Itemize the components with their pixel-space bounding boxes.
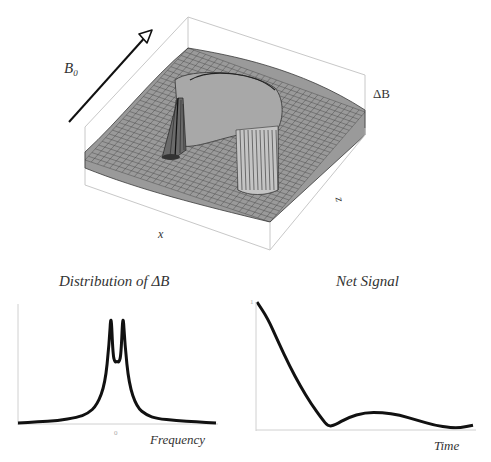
- time-axis-label: Time: [434, 438, 459, 454]
- distribution-curve: [18, 320, 216, 423]
- frequency-zero-tick: 0: [114, 429, 118, 437]
- delta-b-axis-label: ΔB: [373, 86, 390, 102]
- b0-symbol: B: [64, 60, 73, 76]
- frequency-axis-label: Frequency: [150, 432, 205, 448]
- net-signal-one-tick: 1: [250, 298, 254, 306]
- b0-subscript: 0: [73, 68, 78, 78]
- distribution-chart-title: Distribution of ΔB: [59, 273, 169, 290]
- net-signal-chart-title: Net Signal: [336, 273, 399, 290]
- x-axis-label: x: [158, 227, 163, 242]
- b0-label: B0: [64, 60, 78, 78]
- net-signal-curve: [257, 302, 473, 428]
- surface-plot: [0, 0, 491, 262]
